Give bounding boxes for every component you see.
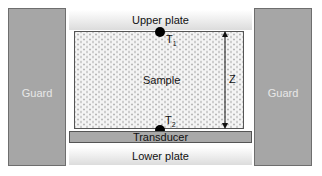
lower-plate-label: Lower plate [69, 150, 252, 162]
transducer-label: Transducer [70, 131, 251, 143]
sample-label: Sample [143, 74, 180, 86]
left-guard-label: Guard [9, 87, 65, 99]
sensor-t1-label: T1 [166, 33, 177, 47]
lower-plate: Lower plate [69, 147, 252, 165]
transducer: Transducer [69, 131, 252, 143]
dimension-label: Z [229, 73, 236, 85]
sensor-t1-dot [155, 27, 165, 37]
upper-plate-label: Upper plate [69, 14, 252, 26]
right-guard: Guard [254, 8, 312, 166]
left-guard: Guard [8, 8, 66, 166]
right-guard-label: Guard [255, 87, 311, 99]
sensor-t2-label: T2 [165, 114, 176, 128]
